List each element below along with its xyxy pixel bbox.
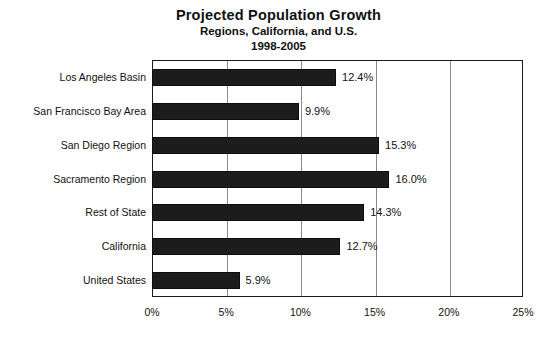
bar-row[interactable]: 14.3% — [152, 195, 523, 229]
bar-value-label: 9.9% — [305, 103, 330, 120]
x-tick-label: 25% — [512, 306, 533, 319]
x-tick-label: 15% — [364, 306, 385, 319]
bars-layer: 12.4%9.9%15.3%16.0%14.3%12.7%5.9% — [152, 60, 523, 297]
category-label: United States — [0, 272, 146, 289]
bar-row[interactable]: 9.9% — [152, 94, 523, 128]
bar-row[interactable]: 12.4% — [152, 60, 523, 94]
bar-value-label: 12.4% — [342, 69, 373, 86]
bar[interactable] — [152, 238, 340, 255]
category-label: Sacramento Region — [0, 171, 146, 188]
chart-page: { "chart_data": { "type": "bar", "orient… — [0, 0, 557, 346]
category-label: Rest of State — [0, 204, 146, 221]
bar-row[interactable]: 5.9% — [152, 263, 523, 297]
x-tick-label: 20% — [438, 306, 459, 319]
bar-value-label: 5.9% — [246, 272, 271, 289]
bar[interactable] — [152, 69, 336, 86]
chart-title: Projected Population Growth — [0, 6, 557, 24]
bar[interactable] — [152, 137, 379, 154]
category-axis: Los Angeles BasinSan Francisco Bay AreaS… — [0, 60, 146, 297]
bar[interactable] — [152, 171, 389, 188]
x-axis: 0%5%10%15%20%25% — [152, 300, 523, 320]
bar-value-label: 15.3% — [385, 137, 416, 154]
bar[interactable] — [152, 103, 299, 120]
bar-row[interactable]: 12.7% — [152, 229, 523, 263]
bar-value-label: 16.0% — [395, 171, 426, 188]
bar[interactable] — [152, 272, 240, 289]
bar[interactable] — [152, 204, 364, 221]
bar-value-label: 14.3% — [370, 204, 401, 221]
bar-value-label: 12.7% — [346, 238, 377, 255]
bar-row[interactable]: 16.0% — [152, 162, 523, 196]
x-tick-label: 0% — [144, 306, 159, 319]
chart-period: 1998-2005 — [0, 39, 557, 54]
title-block: Projected Population Growth Regions, Cal… — [0, 6, 557, 54]
chart-subtitle: Regions, California, and U.S. — [0, 24, 557, 39]
category-label: Los Angeles Basin — [0, 69, 146, 86]
category-label: California — [0, 238, 146, 255]
category-label: San Francisco Bay Area — [0, 103, 146, 120]
category-label: San Diego Region — [0, 137, 146, 154]
x-tick-label: 5% — [219, 306, 234, 319]
x-tick-label: 10% — [290, 306, 311, 319]
bar-row[interactable]: 15.3% — [152, 128, 523, 162]
